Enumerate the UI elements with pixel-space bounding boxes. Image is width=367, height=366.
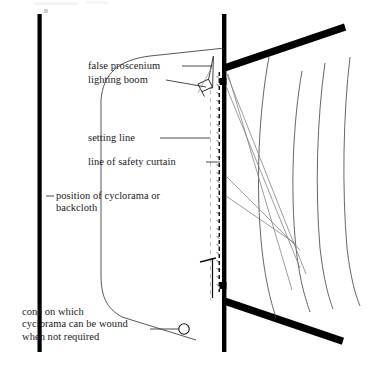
label-lighting-boom: lighting boom bbox=[88, 74, 148, 86]
cyclorama-winding-cone-icon bbox=[179, 324, 189, 334]
label-cone-on-which: cone on which cyclorama can be wound whe… bbox=[22, 306, 128, 343]
label-false-proscenium: false proscenium bbox=[88, 60, 160, 72]
label-position-of-cyclorama: position of cyclorama or backcloth bbox=[56, 190, 160, 215]
left-side-wall bbox=[38, 14, 42, 352]
upper-beam-joint bbox=[220, 78, 227, 85]
label-line-of-safety-curtain: line of safety curtain bbox=[88, 156, 176, 168]
label-setting-line: setting line bbox=[88, 132, 135, 144]
lower-beam-joint bbox=[220, 282, 227, 289]
